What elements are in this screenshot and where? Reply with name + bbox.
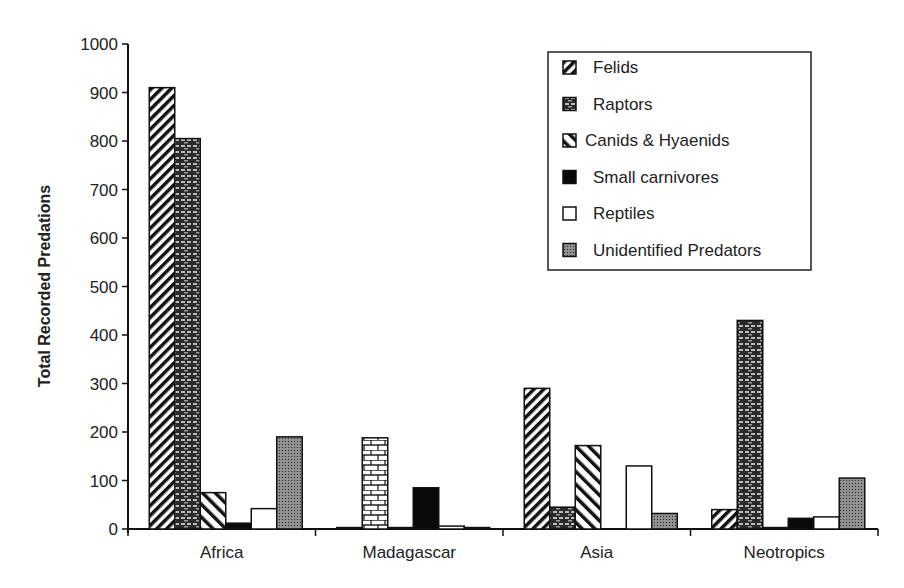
y-tick-label: 900	[90, 84, 118, 103]
bar-madagascar-small-carnivores	[413, 488, 439, 529]
legend-swatch	[563, 171, 576, 184]
bar-asia-canids-hyaenids	[575, 446, 601, 529]
bar-madagascar-raptors	[362, 438, 388, 529]
legend-box	[548, 52, 811, 270]
bar-neotropics-raptors	[737, 320, 763, 529]
legend-label: Raptors	[593, 95, 653, 114]
legend-swatch	[563, 244, 576, 257]
bar-africa-reptiles	[251, 509, 277, 529]
bar-neotropics-unidentified-predators	[839, 478, 865, 529]
y-tick-label: 700	[90, 181, 118, 200]
x-tick-label: Asia	[580, 543, 614, 562]
y-tick-label: 400	[90, 326, 118, 345]
x-tick-label: Neotropics	[744, 543, 825, 562]
bar-asia-reptiles	[626, 466, 652, 529]
bar-madagascar-reptiles	[439, 526, 465, 529]
legend-swatch	[563, 207, 576, 220]
bar-madagascar-canids-hyaenids	[388, 528, 414, 529]
bar-neotropics-felids	[712, 510, 738, 529]
y-tick-label: 300	[90, 375, 118, 394]
y-axis-label: Total Recorded Predations	[36, 185, 53, 388]
bar-neotropics-reptiles	[814, 517, 840, 529]
bar-africa-raptors	[175, 139, 201, 529]
x-axis: AfricaMadagascarAsiaNeotropics	[128, 529, 878, 562]
bar-madagascar-unidentified-predators	[464, 528, 490, 529]
legend-label: Felids	[593, 58, 638, 77]
bar-asia-felids	[524, 388, 550, 529]
bar-neotropics-small-carnivores	[788, 518, 814, 529]
y-axis: 01002003004005006007008009001000	[80, 35, 128, 539]
bar-madagascar-felids	[337, 528, 363, 529]
legend-label: Small carnivores	[593, 168, 719, 187]
bar-africa-small-carnivores	[226, 523, 252, 529]
legend: FelidsRaptorsCanids & HyaenidsSmall carn…	[548, 52, 811, 270]
bar-africa-unidentified-predators	[277, 437, 303, 529]
x-tick-label: Madagascar	[362, 543, 456, 562]
y-tick-label: 600	[90, 229, 118, 248]
legend-label: Unidentified Predators	[593, 241, 761, 260]
y-tick-label: 0	[109, 520, 118, 539]
legend-swatch	[563, 98, 576, 111]
chart: Total Recorded Predations 01002003004005…	[0, 0, 904, 588]
y-tick-label: 100	[90, 472, 118, 491]
legend-swatch	[563, 61, 576, 74]
y-tick-label: 1000	[80, 35, 118, 54]
bar-asia-unidentified-predators	[652, 513, 678, 529]
legend-label: Canids & Hyaenids	[585, 131, 730, 150]
legend-label: Reptiles	[593, 204, 654, 223]
bar-africa-felids	[149, 88, 175, 529]
x-tick-label: Africa	[200, 543, 244, 562]
y-tick-label: 500	[90, 278, 118, 297]
y-tick-label: 200	[90, 423, 118, 442]
legend-swatch	[563, 134, 576, 147]
bar-africa-canids-hyaenids	[200, 493, 226, 529]
bar-asia-raptors	[550, 507, 576, 529]
y-tick-label: 800	[90, 132, 118, 151]
bar-neotropics-canids-hyaenids	[763, 528, 789, 529]
